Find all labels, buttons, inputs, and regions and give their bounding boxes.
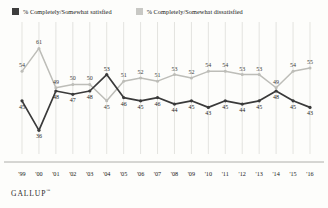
svg-text:44: 44 xyxy=(171,107,177,113)
brand-text: GALLUP xyxy=(11,189,46,198)
svg-text:54: 54 xyxy=(205,62,211,68)
svg-text:45: 45 xyxy=(138,104,144,110)
trademark-icon: ™ xyxy=(46,188,50,193)
svg-text:49: 49 xyxy=(53,79,59,85)
svg-text:45: 45 xyxy=(256,104,262,110)
svg-text:45: 45 xyxy=(290,104,296,110)
svg-text:43: 43 xyxy=(205,110,211,116)
svg-text:46: 46 xyxy=(155,101,161,107)
svg-text:47: 47 xyxy=(70,97,76,103)
svg-text:54: 54 xyxy=(222,62,228,68)
svg-text:51: 51 xyxy=(121,72,127,78)
svg-text:44: 44 xyxy=(239,107,245,113)
svg-text:53: 53 xyxy=(171,66,177,72)
svg-text:54: 54 xyxy=(290,62,296,68)
svg-text:50: 50 xyxy=(70,75,76,81)
gallup-line-chart: % Completely/Somewhat satisfied % Comple… xyxy=(0,0,328,208)
svg-text:52: 52 xyxy=(138,69,144,75)
legend-label-satisfied: % Completely/Somewhat satisfied xyxy=(23,8,112,15)
svg-text:45: 45 xyxy=(222,104,228,110)
x-tick-16: '16 xyxy=(300,170,320,178)
svg-text:50: 50 xyxy=(87,75,93,81)
legend-item-dissatisfied[interactable]: % Completely/Somewhat dissatisfied xyxy=(136,8,243,15)
svg-text:54: 54 xyxy=(19,62,25,68)
legend-swatch-satisfied-icon xyxy=(12,8,19,15)
legend-swatch-dissatisfied-icon xyxy=(136,8,143,15)
chart-legend: % Completely/Somewhat satisfied % Comple… xyxy=(12,4,322,18)
svg-text:53: 53 xyxy=(256,66,262,72)
legend-label-dissatisfied: % Completely/Somewhat dissatisfied xyxy=(147,8,243,15)
x-axis-tick-labels: '99'00'01'02'03'04'05'06'07'08'09'10'11'… xyxy=(0,168,328,182)
gridlines xyxy=(22,22,310,154)
svg-text:46: 46 xyxy=(121,101,127,107)
svg-text:52: 52 xyxy=(188,69,194,75)
svg-text:48: 48 xyxy=(87,94,93,100)
svg-text:61: 61 xyxy=(36,39,42,45)
svg-text:49: 49 xyxy=(273,79,279,85)
svg-text:36: 36 xyxy=(36,133,42,139)
svg-text:48: 48 xyxy=(53,94,59,100)
series-line-satisfied xyxy=(22,75,310,131)
svg-text:51: 51 xyxy=(155,72,161,78)
svg-text:53: 53 xyxy=(239,66,245,72)
series-points-dissatisfied xyxy=(21,47,312,102)
svg-text:43: 43 xyxy=(307,110,313,116)
svg-text:45: 45 xyxy=(188,104,194,110)
series-labels-dissatisfied: 546149505045515251535254545353495455 xyxy=(19,39,313,109)
svg-text:53: 53 xyxy=(104,66,110,72)
gallup-brand-footer: GALLUP™ xyxy=(11,188,50,198)
svg-text:45: 45 xyxy=(19,104,25,110)
legend-item-satisfied[interactable]: % Completely/Somewhat satisfied xyxy=(12,8,112,15)
svg-text:55: 55 xyxy=(307,59,313,65)
plot-area: 546149505045515251535254545353495455 453… xyxy=(0,22,328,170)
series-labels-satisfied: 453648474853464546444543454445484543 xyxy=(19,66,313,140)
svg-text:48: 48 xyxy=(273,94,279,100)
plot-svg: 546149505045515251535254545353495455 453… xyxy=(0,22,328,170)
svg-text:45: 45 xyxy=(104,104,110,110)
